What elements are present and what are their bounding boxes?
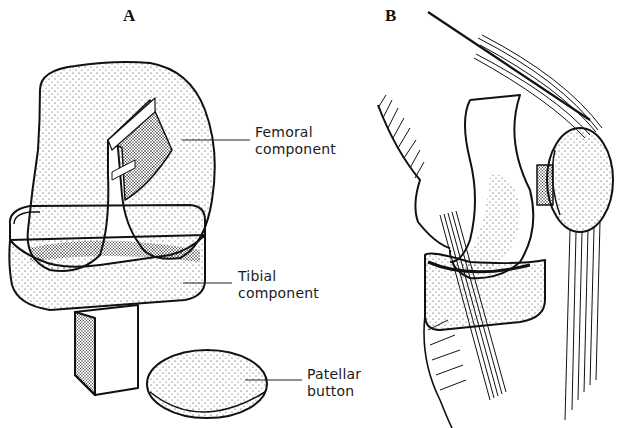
femoral-label-line1: Femoral <box>255 124 336 141</box>
knee-prosthesis-illustration <box>0 0 633 428</box>
patellar-button-label: Patellar button <box>307 366 361 400</box>
patellar-label-line2: button <box>307 383 361 400</box>
panel-label-a: A <box>123 6 135 26</box>
tibial-component-label: Tibial component <box>238 268 319 302</box>
femoral-label-line2: component <box>255 141 336 158</box>
femoral-component-label: Femoral component <box>255 124 336 158</box>
panel-a-drawing <box>9 62 267 418</box>
panel-b-drawing <box>378 12 613 428</box>
patellar-label-line1: Patellar <box>307 366 361 383</box>
tibial-label-line1: Tibial <box>238 268 319 285</box>
tibial-label-line2: component <box>238 285 319 302</box>
panel-label-b: B <box>385 6 396 26</box>
